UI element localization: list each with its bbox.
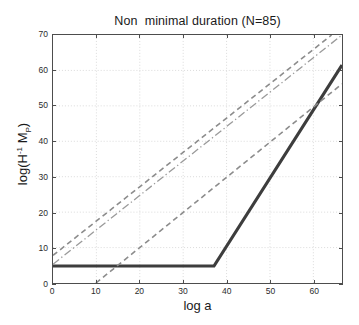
- x-tick-label: 10: [91, 286, 100, 296]
- figure-canvas: Non minimal duration (N=85) 010203040506…: [0, 0, 359, 325]
- x-tick-mark: [183, 34, 184, 38]
- x-tick-mark: [314, 280, 315, 284]
- y-tick-mark-right: [339, 284, 343, 285]
- y-tick-label: 70: [30, 29, 48, 39]
- series-lower-dashed: [96, 84, 342, 283]
- x-tick-mark: [139, 34, 140, 38]
- y-tick-mark-left: [52, 248, 56, 249]
- y-axis-label: log(H-1 MP): [15, 84, 33, 224]
- y-tick-mark-right: [339, 213, 343, 214]
- y-tick-mark-left: [52, 70, 56, 71]
- y-axis-label-subscript: P: [24, 127, 33, 132]
- x-tick-label: 40: [222, 286, 231, 296]
- y-tick-mark-left: [52, 105, 56, 106]
- x-tick-mark: [270, 280, 271, 284]
- x-tick-label: 50: [266, 286, 275, 296]
- y-tick-label: 60: [30, 65, 48, 75]
- series-middle-dashdot: [53, 35, 342, 264]
- x-tick-mark: [96, 280, 97, 284]
- y-axis-label-main: log(H: [15, 154, 30, 185]
- y-tick-mark-right: [339, 70, 343, 71]
- y-axis-label-mid: M: [15, 132, 30, 146]
- x-tick-mark: [227, 34, 228, 38]
- y-axis-label-close: ): [15, 123, 30, 127]
- y-tick-mark-left: [52, 213, 56, 214]
- x-tick-label: 60: [309, 286, 318, 296]
- x-tick-label: 0: [50, 286, 55, 296]
- x-tick-mark: [183, 280, 184, 284]
- y-tick-label: 10: [30, 243, 48, 253]
- y-tick-mark-left: [52, 141, 56, 142]
- y-tick-mark-right: [339, 248, 343, 249]
- x-tick-mark: [227, 280, 228, 284]
- series-horizon-solid: [53, 65, 342, 266]
- plot-area: [52, 34, 343, 284]
- chart-title: Non minimal duration (N=85): [52, 14, 343, 28]
- y-tick-label: 0: [30, 279, 48, 289]
- y-tick-mark-left: [52, 284, 56, 285]
- y-tick-mark-right: [339, 105, 343, 106]
- series-layer: [53, 35, 342, 283]
- x-tick-label: 30: [178, 286, 187, 296]
- x-tick-label: 20: [135, 286, 144, 296]
- x-tick-mark: [96, 34, 97, 38]
- y-tick-mark-right: [339, 34, 343, 35]
- x-tick-mark: [314, 34, 315, 38]
- x-tick-mark: [270, 34, 271, 38]
- y-tick-mark-left: [52, 177, 56, 178]
- y-axis-label-exponent: -1: [15, 147, 24, 154]
- y-tick-mark-right: [339, 141, 343, 142]
- y-tick-mark-right: [339, 177, 343, 178]
- x-axis-label: log a: [52, 298, 343, 313]
- y-tick-mark-left: [52, 34, 56, 35]
- x-tick-mark: [139, 280, 140, 284]
